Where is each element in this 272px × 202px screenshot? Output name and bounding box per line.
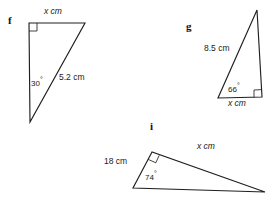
triangle-f-hypotenuse-label: 5.2 cm [59, 73, 85, 82]
triangle-i-hypotenuse-text: x cm [197, 141, 215, 151]
triangle-i-hypotenuse-label: x cm [197, 142, 215, 151]
triangle-g-right-angle-mark [254, 90, 262, 98]
part-label-f: f [8, 15, 12, 26]
degree-symbol-icon: ° [40, 76, 43, 83]
part-label-i: i [150, 121, 153, 132]
triangle-g-outline [218, 10, 262, 98]
triangle-f-top-side-text: x cm [44, 6, 62, 16]
triangle-f-angle-value: 30 [31, 79, 40, 88]
triangle-g-angle-value: 66 [228, 85, 237, 94]
triangle-f-angle-label: 30° [31, 76, 43, 88]
triangle-g-angle-label: 66° [228, 82, 240, 94]
triangle-i-angle-label: 74° [145, 170, 157, 182]
triangle-i-left-side-label: 18 cm [104, 157, 127, 166]
triangle-i-angle-value: 74 [145, 173, 154, 182]
figure-page: f x cm 30° 5.2 cm g 8.5 cm 66° x cm i 18… [0, 0, 272, 202]
triangle-g-hypotenuse-label: 8.5 cm [204, 44, 230, 53]
triangle-f-top-side-label: x cm [44, 7, 62, 16]
triangle-g [218, 10, 262, 98]
triangle-g-base-side-label: x cm [228, 99, 246, 108]
triangle-g-base-side-text: x cm [228, 98, 246, 108]
part-label-g: g [186, 21, 192, 32]
degree-symbol-icon: ° [154, 170, 157, 177]
degree-symbol-icon: ° [237, 82, 240, 89]
triangle-f-right-angle-mark [29, 23, 37, 31]
